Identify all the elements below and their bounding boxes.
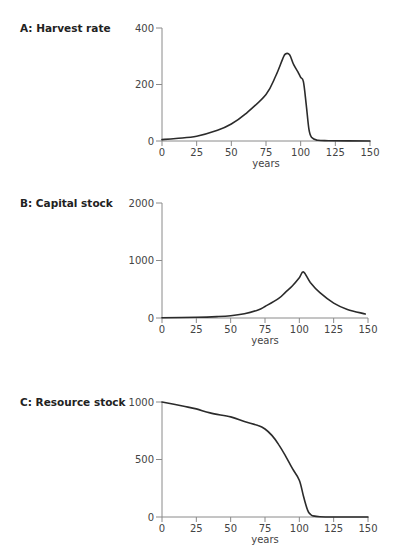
x-tick-label: 0 (159, 523, 165, 534)
y-tick-label: 2000 (129, 198, 154, 209)
x-tick-label: 150 (358, 324, 377, 335)
series-line (162, 402, 368, 517)
y-tick-label: 500 (135, 454, 154, 465)
x-tick-label: 0 (159, 147, 165, 158)
chart-resource-stock: 050010000255075100125150years (129, 397, 378, 546)
y-tick-label: 400 (135, 23, 154, 34)
x-axis-label: years (252, 158, 280, 169)
x-tick-label: 75 (260, 147, 273, 158)
x-tick-label: 50 (225, 147, 238, 158)
x-tick-label: 50 (224, 324, 237, 335)
x-tick-label: 125 (324, 324, 343, 335)
x-axis-label: years (251, 534, 279, 545)
x-tick-label: 25 (190, 523, 203, 534)
y-tick-label: 200 (135, 79, 154, 90)
chart-capital-stock: 0100020000255075100125150years (129, 198, 378, 347)
y-tick-label: 0 (148, 136, 154, 147)
x-tick-label: 75 (259, 523, 272, 534)
series-line (162, 272, 365, 318)
y-tick-label: 0 (148, 512, 154, 523)
x-tick-label: 25 (190, 147, 203, 158)
y-tick-label: 0 (148, 313, 154, 324)
x-axis-label: years (251, 335, 279, 346)
x-tick-label: 125 (326, 147, 345, 158)
x-tick-label: 150 (360, 147, 379, 158)
x-tick-label: 75 (259, 324, 272, 335)
charts-canvas: 02004000255075100125150years010002000025… (0, 0, 402, 557)
x-tick-label: 125 (324, 523, 343, 534)
x-tick-label: 100 (291, 147, 310, 158)
chart-harvest-rate: 02004000255075100125150years (135, 23, 380, 170)
x-tick-label: 0 (159, 324, 165, 335)
series-line (162, 53, 370, 141)
y-tick-label: 1000 (129, 397, 154, 408)
y-tick-label: 1000 (129, 255, 154, 266)
x-tick-label: 50 (224, 523, 237, 534)
x-tick-label: 100 (290, 324, 309, 335)
x-tick-label: 150 (358, 523, 377, 534)
x-tick-label: 25 (190, 324, 203, 335)
x-tick-label: 100 (290, 523, 309, 534)
